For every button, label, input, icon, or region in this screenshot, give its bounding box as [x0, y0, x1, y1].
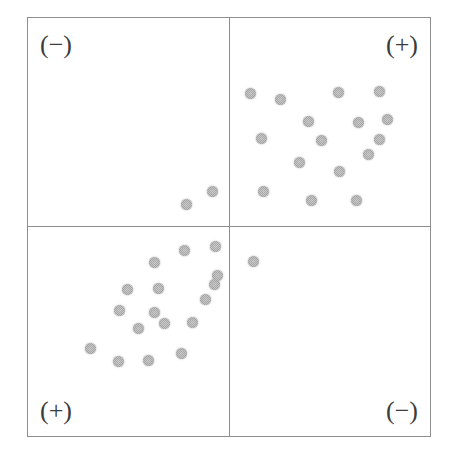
data-point	[353, 117, 364, 128]
data-point	[85, 343, 96, 354]
data-point	[248, 256, 259, 267]
data-point	[258, 186, 269, 197]
data-point	[149, 307, 160, 318]
vertical-axis-line	[229, 18, 230, 436]
quadrant-label-upper-right: (+)	[386, 32, 418, 58]
data-point	[210, 241, 221, 252]
data-point	[306, 195, 317, 206]
data-point	[114, 305, 125, 316]
data-point	[316, 135, 327, 146]
quadrant-label-lower-left: (+)	[40, 398, 72, 424]
data-point	[143, 355, 154, 366]
data-point	[256, 133, 267, 144]
data-point	[363, 149, 374, 160]
plot-frame: (−) (+) (+) (−)	[27, 17, 431, 437]
data-point	[275, 94, 286, 105]
data-point	[294, 157, 305, 168]
horizontal-axis-line	[28, 226, 430, 227]
scatter-figure: (−) (+) (+) (−)	[0, 0, 453, 460]
data-point	[382, 114, 393, 125]
data-point	[181, 199, 192, 210]
data-point	[133, 323, 144, 334]
data-point	[207, 186, 218, 197]
data-point	[200, 294, 211, 305]
data-point	[179, 245, 190, 256]
data-point	[209, 279, 220, 290]
data-point	[176, 348, 187, 359]
data-point	[113, 356, 124, 367]
data-point	[122, 284, 133, 295]
data-point	[159, 318, 170, 329]
data-point	[374, 134, 385, 145]
data-point	[187, 317, 198, 328]
data-point	[334, 166, 345, 177]
data-point	[374, 86, 385, 97]
quadrant-label-upper-left: (−)	[40, 32, 72, 58]
data-point	[212, 270, 223, 281]
data-point	[149, 257, 160, 268]
data-point	[303, 116, 314, 127]
data-point	[153, 283, 164, 294]
data-point	[351, 195, 362, 206]
quadrant-label-lower-right: (−)	[386, 398, 418, 424]
data-point	[245, 88, 256, 99]
data-point	[333, 87, 344, 98]
